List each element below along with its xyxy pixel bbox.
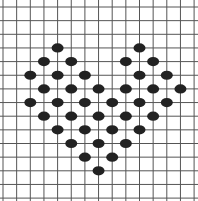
dot	[52, 71, 64, 80]
dot	[65, 84, 77, 93]
dot	[65, 112, 77, 121]
dot	[120, 57, 132, 66]
dot	[79, 125, 91, 134]
dot	[93, 139, 105, 148]
dot	[79, 98, 91, 107]
dot	[65, 57, 77, 66]
dot	[106, 153, 118, 162]
dot	[79, 153, 91, 162]
dot	[120, 139, 132, 148]
dot	[24, 71, 36, 80]
dot	[134, 71, 146, 80]
dot	[93, 166, 105, 175]
dot	[120, 84, 132, 93]
dot	[174, 84, 186, 93]
dot	[161, 98, 173, 107]
dot	[24, 98, 36, 107]
dot	[38, 57, 50, 66]
dot	[147, 84, 159, 93]
dot	[79, 71, 91, 80]
dot	[65, 139, 77, 148]
dot	[52, 98, 64, 107]
dot	[147, 112, 159, 121]
dot	[93, 84, 105, 93]
dot	[134, 98, 146, 107]
dot	[93, 112, 105, 121]
dot	[52, 125, 64, 134]
heart-dot-grid	[0, 0, 198, 201]
heart-dots	[24, 43, 186, 175]
dot	[38, 112, 50, 121]
dot	[161, 71, 173, 80]
dot	[120, 112, 132, 121]
dot	[38, 84, 50, 93]
dot	[147, 57, 159, 66]
dot	[134, 125, 146, 134]
dot	[106, 125, 118, 134]
dot	[106, 98, 118, 107]
dot	[52, 43, 64, 52]
dot	[134, 43, 146, 52]
